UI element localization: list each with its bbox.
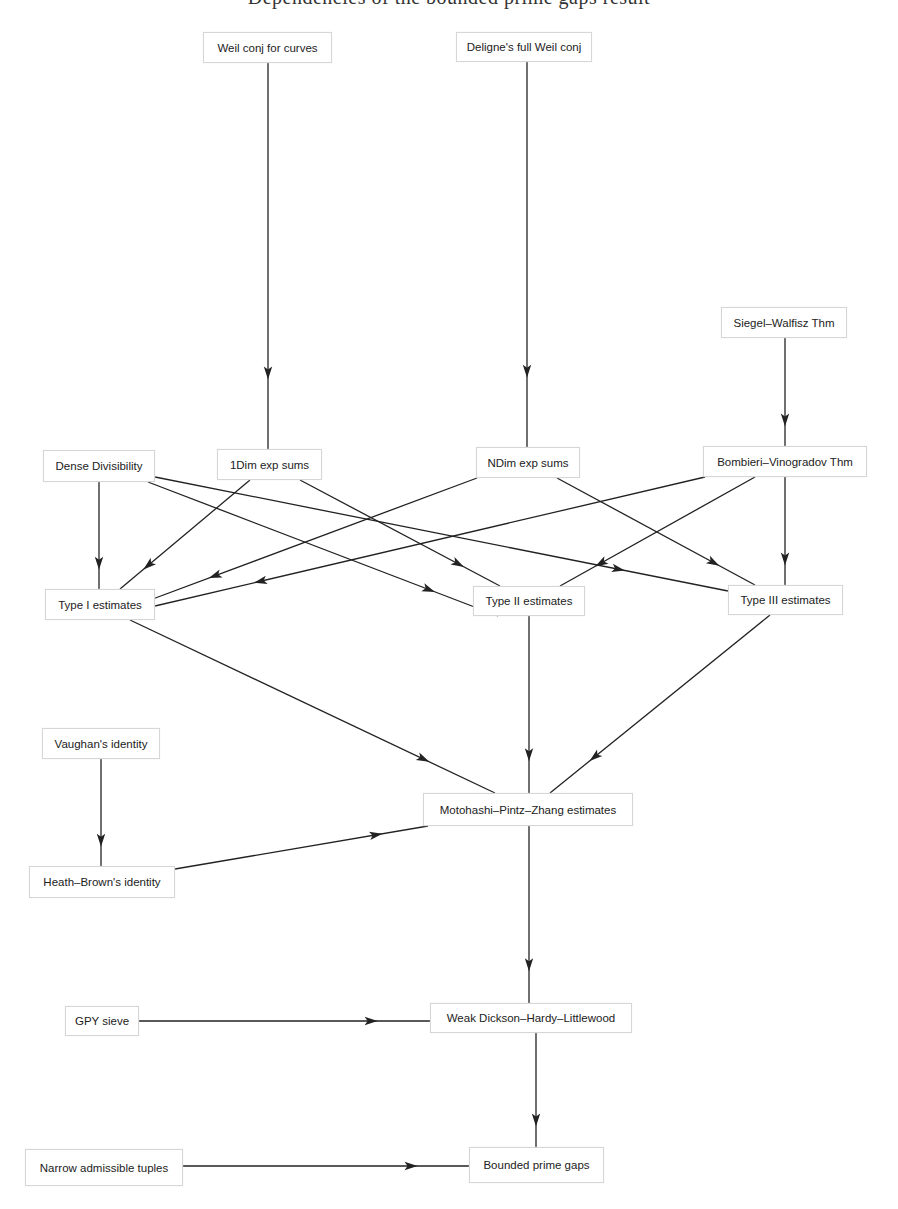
node-nd: NDim exp sums [476, 447, 580, 478]
node-deligne: Deligne's full Weil conj [456, 32, 592, 62]
node-oned: 1Dim exp sums [217, 449, 322, 480]
node-gpy: GPY sieve [65, 1006, 139, 1036]
node-label: NDim exp sums [487, 457, 568, 469]
edge-line [150, 478, 477, 600]
edge-t1-to-mpz [130, 620, 495, 793]
edge-line [130, 620, 495, 793]
node-label: Heath–Brown's identity [43, 876, 160, 888]
edge-siegel-to-bv [781, 338, 789, 446]
node-label: Weak Dickson–Hardy–Littlewood [447, 1012, 616, 1024]
node-label: Weil conj for curves [217, 42, 317, 54]
edge-narrow-to-bpg [183, 1162, 469, 1170]
arrowhead-icon [451, 557, 464, 567]
node-label: Bounded prime gaps [483, 1159, 589, 1171]
node-label: Deligne's full Weil conj [467, 41, 581, 53]
edge-gpy-to-dhl [139, 1017, 430, 1025]
node-hb: Heath–Brown's identity [29, 866, 175, 898]
node-vaughan: Vaughan's identity [42, 728, 160, 759]
node-weil_curves: Weil conj for curves [203, 32, 332, 63]
node-t3: Type III estimates [728, 585, 843, 615]
edge-mpz-to-dhl [525, 826, 533, 1003]
node-t1: Type I estimates [45, 589, 155, 620]
arrowhead-icon [590, 750, 603, 761]
node-narrow: Narrow admissible tuples [25, 1149, 183, 1186]
node-label: Type I estimates [58, 599, 142, 611]
node-siegel: Siegel–Walfisz Thm [721, 307, 847, 338]
arrowhead-icon [595, 556, 608, 566]
arrowhead-icon [416, 752, 430, 761]
edge-weil_curves-to-oned [264, 63, 272, 449]
edge-bv-to-t1 [155, 477, 705, 606]
edge-dhl-to-bpg [532, 1033, 540, 1147]
arrowhead-icon [706, 556, 719, 566]
node-label: 1Dim exp sums [230, 459, 309, 471]
node-bpg: Bounded prime gaps [469, 1147, 604, 1183]
node-t2: Type II estimates [473, 586, 585, 616]
node-bv: Bombieri–Vinogradov Thm [703, 446, 867, 477]
node-mpz: Motohashi–Pintz–Zhang estimates [423, 793, 633, 826]
edge-bv-to-t3 [781, 477, 789, 585]
node-label: Type III estimates [740, 594, 830, 606]
edge-dense-to-t1 [95, 482, 103, 589]
node-dhl: Weak Dickson–Hardy–Littlewood [430, 1003, 632, 1033]
edge-dense-to-t3 [155, 477, 728, 591]
node-label: Siegel–Walfisz Thm [734, 317, 835, 329]
node-label: Narrow admissible tuples [40, 1162, 168, 1174]
edge-vaughan-to-hb [97, 759, 105, 866]
node-label: Dense Divisibility [56, 460, 143, 472]
edge-line [175, 826, 428, 869]
edge-t3-to-mpz [550, 615, 770, 793]
node-label: Bombieri–Vinogradov Thm [717, 456, 853, 468]
edge-line [155, 477, 728, 591]
edge-hb-to-mpz [175, 826, 428, 869]
edge-deligne-to-nd [523, 62, 531, 447]
edge-line [550, 615, 770, 793]
node-label: Motohashi–Pintz–Zhang estimates [440, 804, 616, 816]
node-label: Vaughan's identity [55, 738, 148, 750]
edge-nd-to-t1 [150, 478, 477, 600]
edge-t2-to-mpz [525, 616, 533, 793]
node-dense: Dense Divisibility [43, 450, 155, 482]
node-label: Type II estimates [486, 595, 573, 607]
node-label: GPY sieve [75, 1015, 129, 1027]
edge-line [155, 477, 705, 606]
